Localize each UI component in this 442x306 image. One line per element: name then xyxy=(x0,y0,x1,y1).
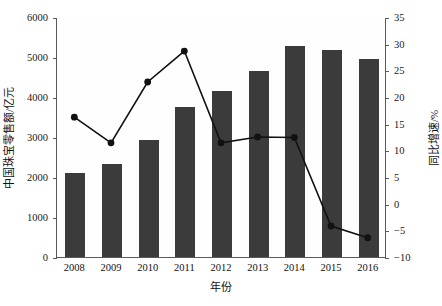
x-axis-tick-label-2014: 2014 xyxy=(284,262,305,273)
bar-2010 xyxy=(139,140,159,257)
y-axis-right-tick xyxy=(385,45,389,46)
y-axis-right-tick-label: 10 xyxy=(394,146,405,157)
y-axis-right-tick xyxy=(385,258,389,259)
y-axis-left-tick-label: 4000 xyxy=(0,93,48,104)
x-axis-tick-label-2013: 2013 xyxy=(247,262,268,273)
y-axis-right-tick xyxy=(385,151,389,152)
chart-container: 中国珠宝零售额/亿元 同比增速/% 0100020003000400050006… xyxy=(0,0,442,306)
y-axis-left-tick xyxy=(53,58,57,59)
bar-2015 xyxy=(322,50,342,257)
y-axis-left-tick xyxy=(53,18,57,19)
y-axis-right-title: 同比增速/% xyxy=(425,110,441,166)
y-axis-right-tick xyxy=(385,178,389,179)
x-axis-tick-label-2011: 2011 xyxy=(174,262,195,273)
y-axis-right-tick xyxy=(385,125,389,126)
y-axis-left-tick-label: 5000 xyxy=(0,53,48,64)
bar-2012 xyxy=(212,91,232,257)
y-axis-left-tick-label: 0 xyxy=(0,253,48,264)
y-axis-left-tick xyxy=(53,138,57,139)
bar-2009 xyxy=(102,164,122,257)
x-axis-tick-label-2009: 2009 xyxy=(101,262,122,273)
x-axis-title: 年份 xyxy=(210,278,232,294)
y-axis-left-tick-label: 3000 xyxy=(0,133,48,144)
bar-2008 xyxy=(65,173,85,257)
y-axis-right-tick-label: 5 xyxy=(394,173,399,184)
bar-2016 xyxy=(359,59,379,257)
y-axis-right-tick xyxy=(385,205,389,206)
y-axis-left-tick-label: 1000 xyxy=(0,213,48,224)
bar-2014 xyxy=(285,46,305,257)
y-axis-left-tick xyxy=(53,258,57,259)
y-axis-right-tick xyxy=(385,231,389,232)
x-axis-tick-label-2010: 2010 xyxy=(137,262,158,273)
y-axis-left-tick-label: 2000 xyxy=(0,173,48,184)
y-axis-right-title-wrap: 同比增速/% xyxy=(424,18,442,258)
y-axis-left-tick xyxy=(53,98,57,99)
x-axis-tick-label-2008: 2008 xyxy=(64,262,85,273)
y-axis-right-tick-label: −10 xyxy=(394,253,410,264)
y-axis-left-tick xyxy=(53,178,57,179)
x-axis-tick-label-2012: 2012 xyxy=(211,262,232,273)
x-axis-tick-label-2015: 2015 xyxy=(321,262,342,273)
y-axis-left-tick-label: 6000 xyxy=(0,13,48,24)
bar-2013 xyxy=(249,71,269,257)
y-axis-right-tick-label: 20 xyxy=(394,93,405,104)
y-axis-right-tick xyxy=(385,18,389,19)
y-axis-right-tick-label: 0 xyxy=(394,199,399,210)
y-axis-right-tick-label: 30 xyxy=(394,39,405,50)
x-axis-tick-label-2016: 2016 xyxy=(357,262,378,273)
y-axis-left-tick xyxy=(53,218,57,219)
plot-area xyxy=(56,18,386,258)
y-axis-right-tick-label: 25 xyxy=(394,66,405,77)
y-axis-right-tick-label: 35 xyxy=(394,13,405,24)
y-axis-right-tick-label: −5 xyxy=(394,226,405,237)
bar-2011 xyxy=(175,107,195,257)
y-axis-right-tick-label: 15 xyxy=(394,119,405,130)
y-axis-right-tick xyxy=(385,98,389,99)
y-axis-right-tick xyxy=(385,71,389,72)
